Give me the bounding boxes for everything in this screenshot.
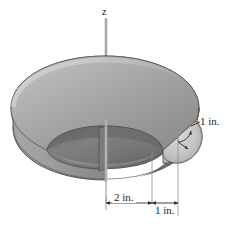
torus-figure: z 1 in. 2 in. 1 in. [0, 0, 234, 241]
torus-diagram-svg [0, 0, 234, 241]
tube-dimension-label: 1 in. [155, 205, 175, 216]
outer-dimension-label: 2 in. [112, 192, 136, 203]
radius-dimension-label: 1 in. [200, 116, 220, 127]
axis-label-z: z [102, 7, 106, 17]
